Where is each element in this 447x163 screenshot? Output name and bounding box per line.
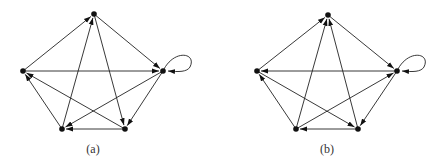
edge-bl-to-t [62, 18, 93, 129]
edge-bl-to-t [296, 19, 327, 129]
node-r [394, 68, 400, 74]
node-l [254, 68, 260, 74]
node-t [325, 12, 331, 18]
diagram-canvas [0, 0, 447, 163]
caption-a: (a) [86, 142, 99, 157]
node-t [91, 11, 97, 17]
edge-t-to-r [328, 15, 394, 68]
edge-bl-to-r [296, 73, 394, 129]
edge-r-to-br [360, 71, 397, 126]
edge-r-to-bl [65, 71, 163, 127]
edge-t-to-r [94, 14, 160, 68]
graph-b [254, 12, 425, 132]
node-l [20, 68, 26, 74]
edge-r-to-br [127, 71, 163, 126]
node-br [122, 126, 128, 132]
edge-l-to-br [257, 71, 355, 127]
node-bl [293, 126, 299, 132]
self-loop-edge [398, 55, 425, 71]
node-bl [59, 126, 65, 132]
node-r [160, 68, 166, 74]
self-loop-edge [164, 55, 191, 71]
node-br [355, 126, 361, 132]
graph-a [20, 11, 191, 132]
caption-b: (b) [320, 142, 334, 157]
